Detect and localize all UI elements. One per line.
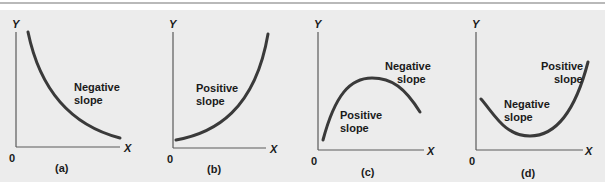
origin-label: 0 (311, 155, 317, 167)
negative-slope-label-line1: Negative (385, 60, 431, 72)
positive-slope-label-line1: Positive (541, 60, 583, 72)
panel-d: Y X 0 Positive slope Negative slope (d) (469, 18, 593, 179)
panel-caption: (a) (55, 162, 69, 174)
panel-caption: (c) (361, 166, 375, 178)
panel-b: Y X 0 Positive slope (b) (167, 18, 278, 175)
panel-c: Y X 0 Negative slope Positive slope (c) (311, 18, 435, 178)
positive-slope-label-line2: slope (554, 73, 583, 85)
positive-slope-label-line2: slope (340, 122, 369, 134)
negative-slope-label-line2: slope (504, 111, 533, 123)
slope-label-line2: slope (196, 95, 225, 107)
slope-diagram: Y X 0 Negative slope (a) Y X 0 Positive … (0, 0, 605, 191)
panel-caption: (d) (521, 167, 535, 179)
panel-a: Y X 0 Negative slope (a) (9, 18, 132, 174)
positive-slope-label-line1: Positive (340, 109, 382, 121)
slope-label-line1: Negative (74, 81, 120, 93)
y-axis-label: Y (169, 18, 178, 30)
x-axis-label: X (426, 145, 435, 157)
negative-slope-label-line1: Negative (504, 98, 550, 110)
y-axis-label: Y (12, 18, 21, 30)
slope-label-line2: slope (74, 94, 103, 106)
x-axis-label: X (123, 142, 132, 154)
slope-label-line1: Positive (196, 82, 238, 94)
x-axis-label: X (269, 143, 278, 155)
origin-label: 0 (167, 153, 173, 165)
y-axis-label: Y (472, 18, 481, 30)
panel-caption: (b) (207, 163, 221, 175)
x-axis-label: X (584, 145, 593, 157)
origin-label: 0 (469, 155, 475, 167)
negative-slope-label-line2: slope (397, 73, 426, 85)
origin-label: 0 (9, 152, 15, 164)
y-axis-label: Y (314, 18, 323, 30)
